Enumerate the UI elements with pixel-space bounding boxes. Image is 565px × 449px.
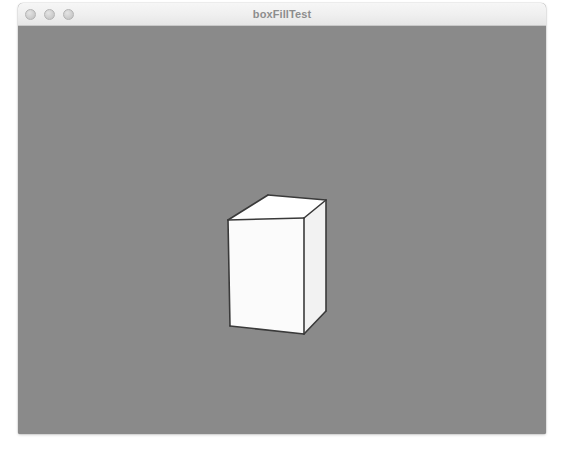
- box-front-face: [228, 218, 304, 334]
- scene-svg: [18, 26, 546, 434]
- zoom-button-icon[interactable]: [63, 9, 74, 20]
- minimize-button-icon[interactable]: [44, 9, 55, 20]
- window-title: boxFillTest: [18, 3, 546, 25]
- traffic-lights: [25, 3, 74, 25]
- app-window: boxFillTest: [18, 3, 546, 434]
- render-canvas[interactable]: [18, 26, 546, 434]
- titlebar[interactable]: boxFillTest: [18, 3, 546, 26]
- close-button-icon[interactable]: [25, 9, 36, 20]
